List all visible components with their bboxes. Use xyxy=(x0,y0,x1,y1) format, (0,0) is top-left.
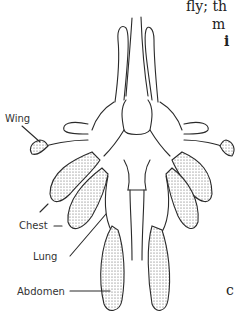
wing-label: Wing xyxy=(5,113,30,124)
chest-label: Chest xyxy=(19,220,48,231)
abdomen-label: Abdomen xyxy=(17,286,65,297)
lung-label: Lung xyxy=(33,251,57,262)
insect-anatomy-illustration xyxy=(0,0,237,314)
